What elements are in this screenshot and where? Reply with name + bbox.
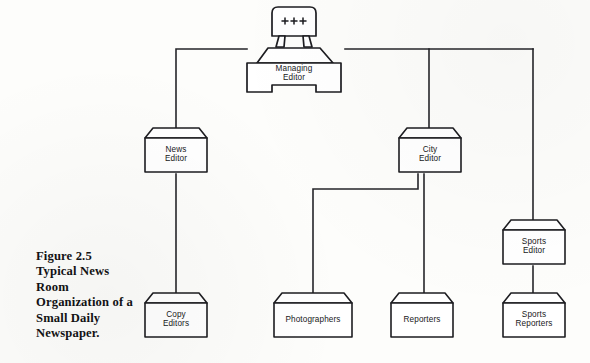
node-label-managing-editor: Managing Editor bbox=[241, 64, 347, 82]
figure-caption: Figure 2.5 Typical News Room Organizatio… bbox=[36, 249, 186, 341]
box-top-bevel bbox=[399, 128, 461, 138]
box-top-bevel bbox=[274, 293, 352, 303]
node-sports-editor[interactable]: Sports Editor bbox=[500, 217, 568, 267]
box-top-bevel bbox=[503, 220, 565, 230]
node-news-editor[interactable]: News Editor bbox=[142, 125, 210, 175]
edge-managing-to-news bbox=[176, 49, 247, 128]
box-top-bevel bbox=[503, 293, 565, 303]
edge-city-to-photographers bbox=[313, 174, 418, 293]
box-top-bevel bbox=[391, 293, 453, 303]
chair-tufting-marks-icon bbox=[282, 18, 306, 24]
node-label-sports-editor: Sports Editor bbox=[500, 237, 568, 255]
node-managing-editor[interactable]: Managing Editor bbox=[241, 3, 347, 99]
desk-top-icon bbox=[257, 48, 333, 63]
node-label-news-editor: News Editor bbox=[142, 145, 210, 163]
node-photographers[interactable]: Photographers bbox=[271, 290, 355, 340]
node-label-city-editor: City Editor bbox=[396, 145, 464, 163]
node-label-sports-reporters: Sports Reporters bbox=[500, 310, 568, 328]
chair-leg-left-icon bbox=[276, 36, 285, 47]
box-top-bevel bbox=[145, 128, 207, 138]
node-label-photographers: Photographers bbox=[271, 315, 355, 324]
figure-page: Managing Editor News Editor City Editor bbox=[0, 0, 590, 363]
node-sports-reporters[interactable]: Sports Reporters bbox=[500, 290, 568, 340]
chair-leg-right-icon bbox=[303, 36, 312, 47]
node-label-reporters: Reporters bbox=[388, 315, 456, 324]
node-city-editor[interactable]: City Editor bbox=[396, 125, 464, 175]
node-reporters[interactable]: Reporters bbox=[388, 290, 456, 340]
